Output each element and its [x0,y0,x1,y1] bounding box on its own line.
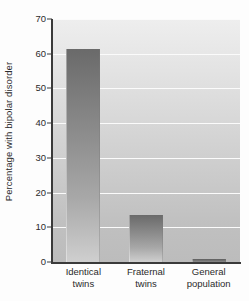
x-axis-label-line: population [177,278,240,290]
y-axis-tick-labels: 010203040506070 [18,0,46,301]
bar-chart-figure: Percentage with bipolar disorder 0102030… [0,0,249,301]
y-axis-title-text: Percentage with bipolar disorder [4,61,15,200]
x-axis-label-line: twins [115,278,178,290]
gridline [52,19,240,20]
y-axis-tick-mark [47,262,52,263]
y-axis-tick-label: 60 [20,49,46,59]
y-axis-tick-mark [47,53,52,54]
x-axis-label-line: General [192,266,226,277]
y-axis-tick-mark [47,157,52,158]
y-axis-tick-label: 50 [20,84,46,94]
x-axis-label-line: Identical [66,266,101,277]
y-axis-tick-mark [47,192,52,193]
y-axis-tick-mark [47,88,52,89]
x-axis-label-identical-twins: Identicaltwins [52,266,115,289]
y-axis-tick-label: 40 [20,118,46,128]
y-axis-tick-mark [47,19,52,20]
plot-area [52,19,240,262]
x-axis-spine [51,262,241,264]
y-axis-tick-label: 0 [20,257,46,267]
x-axis-category-labels: IdenticaltwinsFraternaltwinsGeneralpopul… [52,266,240,300]
x-axis-label-general-population: Generalpopulation [177,266,240,289]
y-axis-tick-label: 70 [20,14,46,24]
bar-identical-twins [66,49,100,262]
y-axis-tick-label: 10 [20,223,46,233]
y-axis-tick-mark [47,123,52,124]
x-axis-label-line: twins [52,278,115,290]
y-axis-title: Percentage with bipolar disorder [0,0,18,262]
y-axis-tick-label: 20 [20,188,46,198]
y-axis-tick-mark [47,227,52,228]
y-axis-tick-label: 30 [20,153,46,163]
bar-fraternal-twins [129,215,163,262]
x-axis-label-line: Fraternal [127,266,165,277]
x-axis-label-fraternal-twins: Fraternaltwins [115,266,178,289]
